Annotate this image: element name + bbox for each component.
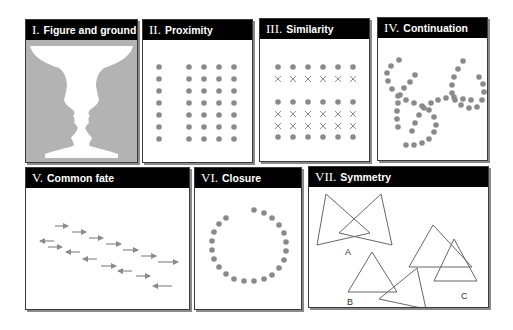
symmetry-label-c: C bbox=[461, 291, 468, 301]
similarity-grid bbox=[260, 39, 369, 161]
symmetry-label-b: B bbox=[347, 297, 353, 307]
panel-numeral: III. bbox=[266, 21, 282, 37]
panel-closure: VI. Closure bbox=[194, 167, 302, 310]
symmetry-label-a: A bbox=[345, 247, 351, 257]
proximity-dot-grid bbox=[143, 40, 252, 162]
continuation-dot-curves bbox=[378, 38, 487, 160]
panel-title: Similarity bbox=[286, 23, 333, 35]
panel-header: VI. Closure bbox=[195, 168, 301, 188]
panel-title: Closure bbox=[222, 172, 261, 184]
panel-header: V. Common fate bbox=[26, 168, 189, 188]
panel-common-fate: V. Common fate bbox=[25, 167, 190, 310]
panel-symmetry: VII. Symmetry A B C bbox=[308, 166, 489, 308]
rubin-vase-icon bbox=[26, 40, 137, 162]
panel-numeral: V. bbox=[32, 170, 43, 186]
panel-continuation: IV. Continuation bbox=[377, 17, 488, 161]
panel-numeral: VII. bbox=[315, 169, 336, 185]
panel-proximity: II. Proximity bbox=[142, 19, 253, 163]
symmetry-triangles: A B C bbox=[309, 187, 488, 307]
panel-similarity: III. Similarity bbox=[259, 18, 370, 162]
common-fate-arrows bbox=[26, 188, 189, 309]
panel-figure-and-ground: I. Figure and ground bbox=[25, 19, 138, 163]
panel-header: III. Similarity bbox=[260, 19, 369, 39]
panel-title: Symmetry bbox=[340, 171, 391, 183]
panel-title: Proximity bbox=[165, 24, 213, 36]
panel-numeral: I. bbox=[32, 22, 40, 38]
panel-header: IV. Continuation bbox=[378, 18, 487, 38]
panel-header: I. Figure and ground bbox=[26, 20, 137, 40]
panel-numeral: IV. bbox=[384, 20, 399, 36]
panel-header: II. Proximity bbox=[143, 20, 252, 40]
panel-numeral: II. bbox=[149, 22, 161, 38]
panel-title: Common fate bbox=[47, 172, 114, 184]
panel-numeral: VI. bbox=[201, 170, 218, 186]
panel-title: Continuation bbox=[403, 22, 468, 34]
panel-title: Figure and ground bbox=[44, 24, 137, 36]
closure-dot-circle bbox=[195, 188, 301, 309]
panel-header: VII. Symmetry bbox=[309, 167, 488, 187]
